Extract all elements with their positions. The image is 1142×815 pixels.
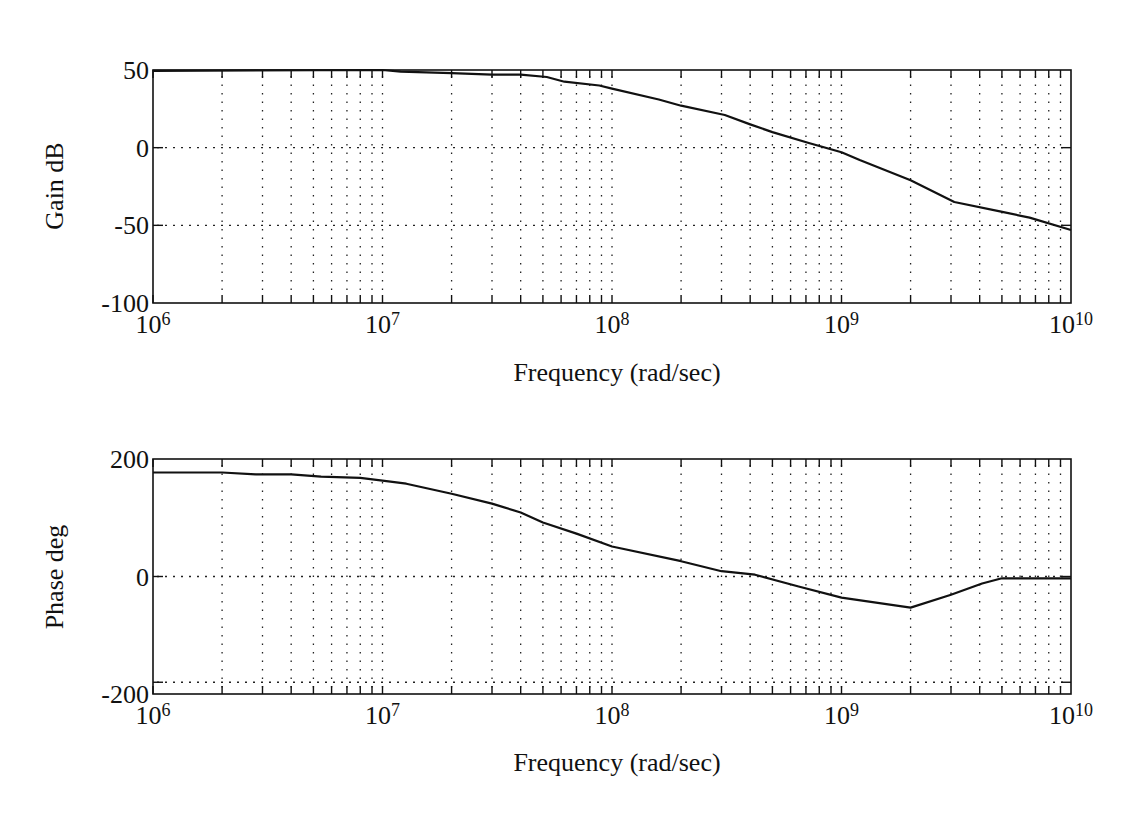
phase-curve <box>153 473 1071 608</box>
phase-y-tick-labels: 2000-200 <box>101 445 149 709</box>
x-tick-label: 1010 <box>1049 700 1093 730</box>
x-tick-label: 109 <box>824 309 859 339</box>
x-tick-label: 108 <box>595 309 630 339</box>
phase-x-tick-labels: 1061071081091010 <box>136 700 1094 730</box>
y-tick-label: -50 <box>114 211 149 240</box>
gain-x-axis-title: Frequency (rad/sec) <box>513 358 720 387</box>
x-tick-label: 107 <box>365 309 400 339</box>
phase-y-axis-title: Phase deg <box>40 525 69 630</box>
gain-y-axis-title: Gain dB <box>40 142 69 229</box>
y-tick-label: 0 <box>136 563 149 592</box>
x-tick-label: 1010 <box>1049 309 1093 339</box>
x-tick-label: 108 <box>595 700 630 730</box>
gain-y-tick-labels: 500-50-100 <box>101 56 149 318</box>
bode-plot: 500-50-100 1061071081091010 Gain dB Freq… <box>0 0 1142 815</box>
phase-gridlines <box>157 465 1067 688</box>
x-tick-label: 109 <box>824 700 859 730</box>
x-tick-label: 107 <box>365 700 400 730</box>
phase-x-axis-title: Frequency (rad/sec) <box>513 748 720 777</box>
x-tick-label: 106 <box>136 309 171 339</box>
phase-plot: 2000-200 1061071081091010 Phase deg Freq… <box>40 445 1093 777</box>
y-tick-label: 0 <box>136 134 149 163</box>
gain-gridlines <box>157 76 1067 297</box>
y-tick-label: 50 <box>123 56 149 85</box>
gain-plot: 500-50-100 1061071081091010 Gain dB Freq… <box>40 56 1093 387</box>
y-tick-label: 200 <box>110 445 149 474</box>
x-tick-label: 106 <box>136 700 171 730</box>
gain-x-tick-labels: 1061071081091010 <box>136 309 1094 339</box>
